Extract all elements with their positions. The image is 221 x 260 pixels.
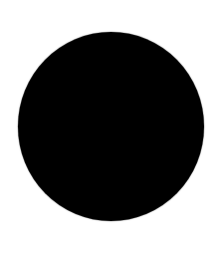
black-circle [18, 32, 204, 221]
canvas [0, 0, 221, 260]
